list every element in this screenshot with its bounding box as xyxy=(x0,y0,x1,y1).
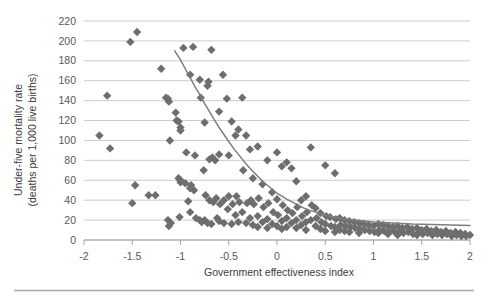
data-point-marker xyxy=(242,131,250,139)
y-axis-tick-label: 80 xyxy=(64,154,76,166)
data-point-marker xyxy=(239,166,247,174)
data-point-marker xyxy=(246,145,254,153)
data-point-marker xyxy=(207,46,215,54)
x-axis-tick-label: -1 xyxy=(176,250,185,262)
data-point-marker xyxy=(95,131,103,139)
y-axis-tick-label: 140 xyxy=(58,94,76,106)
y-axis-tick-label: 160 xyxy=(58,74,76,86)
data-points xyxy=(95,28,474,240)
data-point-marker xyxy=(273,148,281,156)
data-point-marker xyxy=(254,194,262,202)
data-point-marker xyxy=(131,181,139,189)
x-axis-tick-label: 1.5 xyxy=(414,250,429,262)
y-axis-title-line-1: Under-five mortality rate xyxy=(12,84,24,196)
data-point-marker xyxy=(126,38,134,46)
data-point-marker xyxy=(321,161,329,169)
y-axis-title-line-2: (deaths per 1,000 live births) xyxy=(26,73,38,206)
y-axis-tick-label: 120 xyxy=(58,114,76,126)
y-axis-tick-label: 0 xyxy=(70,234,76,246)
data-point-marker xyxy=(292,177,300,185)
data-point-marker xyxy=(196,76,204,84)
data-point-marker xyxy=(219,71,227,79)
data-point-marker xyxy=(133,28,141,36)
data-point-marker xyxy=(273,195,281,203)
x-axis-tick-label: 2 xyxy=(467,250,473,262)
x-axis-tick-label: 0.5 xyxy=(318,250,333,262)
data-point-marker xyxy=(254,142,262,150)
data-point-marker xyxy=(186,208,194,216)
data-point-marker xyxy=(225,151,233,159)
data-point-marker xyxy=(103,91,111,99)
x-axis-tick-label: -0.5 xyxy=(220,250,238,262)
data-point-marker xyxy=(227,220,235,228)
x-axis-line-and-ticks xyxy=(84,240,470,245)
gridlines xyxy=(84,21,470,240)
y-axis-tick-label: 180 xyxy=(58,54,76,66)
data-point-marker xyxy=(151,191,159,199)
y-axis-tick-labels: 020406080100120140160180200220 xyxy=(58,15,76,246)
data-point-marker xyxy=(307,143,315,151)
y-axis-tick-label: 40 xyxy=(64,194,76,206)
data-point-marker xyxy=(287,164,295,172)
x-axis-tick-label: 1 xyxy=(371,250,377,262)
y-axis-tick-label: 20 xyxy=(64,214,76,226)
x-axis-tick-label: -2 xyxy=(79,250,88,262)
y-axis-tick-label: 60 xyxy=(64,174,76,186)
data-point-marker xyxy=(189,43,197,51)
scatter-plot: 020406080100120140160180200220 -2-1.5-1-… xyxy=(0,0,488,298)
data-point-marker xyxy=(223,94,231,102)
x-axis-tick-label: -1.5 xyxy=(123,250,141,262)
y-axis-tick-label: 200 xyxy=(58,35,76,47)
data-point-marker xyxy=(227,117,235,125)
data-point-marker xyxy=(200,118,208,126)
data-point-marker xyxy=(171,108,179,116)
data-point-marker xyxy=(191,151,199,159)
data-point-marker xyxy=(157,65,165,73)
data-point-marker xyxy=(215,107,223,115)
data-point-marker xyxy=(182,148,190,156)
y-axis-tick-label: 220 xyxy=(58,15,76,27)
chart-figure: 020406080100120140160180200220 -2-1.5-1-… xyxy=(0,0,488,298)
y-axis-tick-label: 100 xyxy=(58,134,76,146)
data-point-marker xyxy=(199,166,207,174)
data-point-marker xyxy=(179,44,187,52)
data-point-marker xyxy=(263,156,271,164)
data-point-marker xyxy=(184,197,192,205)
x-axis-tick-label: 0 xyxy=(274,250,280,262)
data-point-marker xyxy=(331,169,339,177)
data-point-marker xyxy=(254,212,262,220)
data-point-marker xyxy=(166,136,174,144)
data-point-marker xyxy=(106,144,114,152)
x-axis-title: Government effectiveness index xyxy=(204,266,355,278)
x-axis-tick-labels: -2-1.5-1-0.500.511.52 xyxy=(79,250,473,262)
